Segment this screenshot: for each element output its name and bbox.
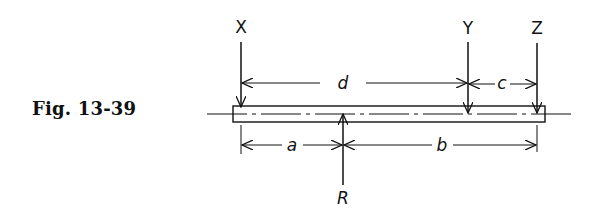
dimension-a: a [242, 135, 342, 155]
force-y: Y [462, 18, 474, 113]
force-r: R [337, 114, 349, 208]
force-z: Z [531, 18, 543, 113]
dimension-a-label: a [287, 135, 297, 155]
force-x-label: X [235, 17, 247, 37]
figure-13-39: Fig. 13-39 X Y Z R [0, 0, 600, 217]
dimension-d: d [242, 73, 467, 93]
dimension-c: c [469, 73, 536, 93]
dimension-b: b [344, 135, 536, 155]
beam-diagram: X Y Z R d c [0, 0, 600, 217]
force-x: X [235, 17, 247, 107]
dimension-c-label: c [497, 73, 507, 93]
dimension-d-label: d [338, 73, 349, 93]
force-r-label: R [337, 188, 349, 208]
force-z-label: Z [531, 18, 543, 38]
dimension-b-label: b [437, 135, 448, 155]
force-y-label: Y [462, 18, 474, 38]
